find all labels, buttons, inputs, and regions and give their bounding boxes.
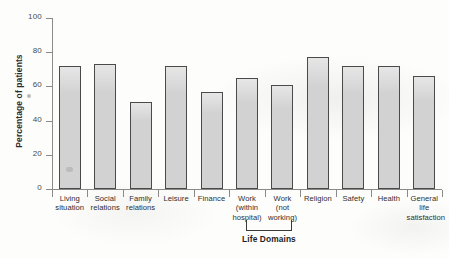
category-label-line: Work (265, 194, 300, 203)
category-label-line: situation (52, 203, 87, 212)
category-label-line: relations (123, 203, 158, 212)
y-tick-label-40: 40 (33, 115, 42, 124)
bar-series (52, 18, 442, 189)
category-label: Health (371, 194, 406, 203)
bar-slot (236, 18, 258, 189)
bar (201, 92, 223, 189)
y-tick-label-60: 60 (33, 80, 42, 89)
category-label: Work(notworking) (265, 194, 300, 222)
category-label-line: Social (87, 194, 122, 203)
category-label-line: Leisure (158, 194, 193, 203)
category-label: Livingsituation (52, 194, 87, 213)
category-label-line: (not (265, 203, 300, 212)
x-axis-title: Life Domains (226, 234, 312, 244)
bar (236, 78, 258, 189)
category-label-line: Religion (300, 194, 335, 203)
y-tick-label-80: 80 (33, 46, 42, 55)
work-group-bracket (246, 220, 292, 231)
bar (413, 76, 435, 189)
bar-slot (307, 18, 329, 189)
category-label-line: life (407, 203, 442, 212)
bar (378, 66, 400, 189)
bar (271, 85, 293, 189)
bar (342, 66, 364, 189)
category-label-line: Living (52, 194, 87, 203)
bar-slot (165, 18, 187, 189)
category-label-line: Work (229, 194, 264, 203)
y-tick-label-20: 20 (33, 149, 42, 158)
bar (130, 102, 152, 189)
y-tick-label-100: 100 (28, 12, 42, 21)
category-label: Religion (300, 194, 335, 203)
category-label: Work(withinhospital) (229, 194, 264, 222)
bar-slot (413, 18, 435, 189)
scan-speck (27, 94, 31, 98)
category-label-line: Finance (194, 194, 229, 203)
category-label-line: Health (371, 194, 406, 203)
y-tick-label-0: 0 (37, 183, 42, 192)
category-label: Leisure (158, 194, 193, 203)
bar-slot (59, 18, 81, 189)
category-label: Socialrelations (87, 194, 122, 213)
bar-slot (201, 18, 223, 189)
bar-slot (130, 18, 152, 189)
y-axis-title-text: Percentage of patients (14, 46, 24, 156)
category-label-line: (within (229, 203, 264, 212)
category-label-line: General (407, 194, 442, 203)
scan-speck-baseline (66, 167, 73, 172)
chart-page: Percentage of patients 020406080100 Livi… (0, 0, 449, 258)
category-label-line: Safety (336, 194, 371, 203)
x-axis-line (52, 189, 442, 190)
category-label-line: satisfaction (407, 213, 442, 222)
category-label-line: relations (87, 203, 122, 212)
plot-area: 020406080100 (52, 18, 442, 189)
bar (307, 57, 329, 189)
category-label: Finance (194, 194, 229, 203)
x-tick (442, 190, 443, 197)
bar-slot (378, 18, 400, 189)
bar (94, 64, 116, 189)
bar-slot (271, 18, 293, 189)
bar-slot (342, 18, 364, 189)
category-label: Generallifesatisfaction (407, 194, 442, 222)
bar (165, 66, 187, 189)
category-label-line: Family (123, 194, 158, 203)
category-label: Familyrelations (123, 194, 158, 213)
category-label: Safety (336, 194, 371, 203)
bar-slot (94, 18, 116, 189)
